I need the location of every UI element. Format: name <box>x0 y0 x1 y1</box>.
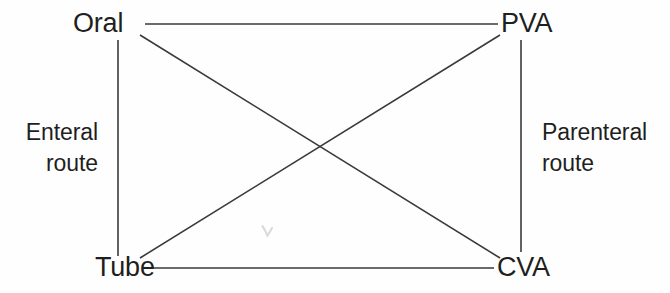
route-label-parenteral-line1: Parenteral <box>542 117 647 148</box>
node-label-tube: Tube <box>95 254 155 281</box>
node-label-pva: PVA <box>501 10 552 37</box>
route-label-parenteral: Parenteral route <box>542 117 647 179</box>
route-label-enteral-line2: route <box>26 148 98 179</box>
route-label-parenteral-line2: route <box>542 148 647 179</box>
diagram-canvas: Oral PVA Tube CVA Enteral route Parenter… <box>0 0 670 293</box>
node-label-cva: CVA <box>497 254 550 281</box>
node-label-oral: Oral <box>73 10 123 37</box>
route-label-enteral: Enteral route <box>26 117 98 179</box>
route-label-enteral-line1: Enteral <box>26 117 98 148</box>
